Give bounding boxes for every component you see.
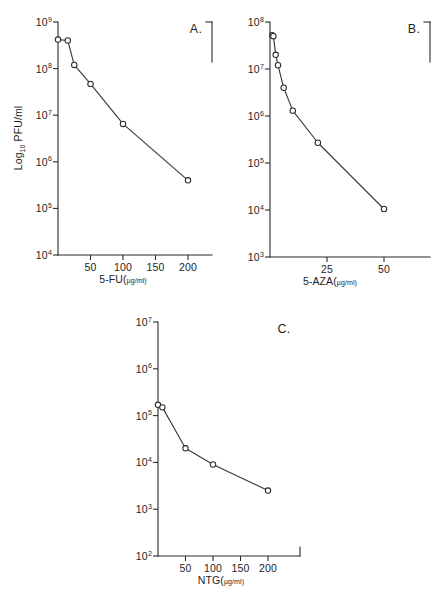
x-tick-label: 50 bbox=[179, 562, 191, 574]
y-tick-label: 104 bbox=[36, 249, 52, 262]
data-series-line bbox=[158, 405, 268, 491]
y-tick-label: 103 bbox=[136, 503, 152, 516]
y-tick-label: 105 bbox=[136, 409, 152, 422]
y-tick-label: 108 bbox=[36, 62, 52, 75]
data-point-marker bbox=[210, 462, 215, 467]
data-point-marker bbox=[55, 37, 60, 42]
data-point-marker bbox=[88, 81, 93, 86]
y-tick-label: 106 bbox=[36, 155, 52, 168]
y-tick-label: 106 bbox=[248, 110, 264, 123]
data-series-line bbox=[272, 35, 384, 209]
x-tick-label: 200 bbox=[179, 261, 197, 273]
x-tick-label: 25 bbox=[321, 263, 333, 275]
x-tick-label: 50 bbox=[378, 263, 390, 275]
panel-letter: B. bbox=[408, 22, 420, 36]
data-point-marker bbox=[120, 121, 125, 126]
data-point-marker bbox=[160, 405, 165, 410]
data-point-marker bbox=[290, 108, 295, 113]
data-series-line bbox=[58, 40, 188, 181]
y-tick-label: 107 bbox=[248, 63, 264, 76]
y-tick-label: 109 bbox=[36, 16, 52, 29]
figure-root: 104105106107108109501001502005-FU(µg/ml)… bbox=[0, 0, 448, 593]
panel-a: 104105106107108109501001502005-FU(µg/ml)… bbox=[12, 16, 212, 286]
data-point-marker bbox=[72, 62, 77, 67]
panel-letter: C. bbox=[277, 322, 290, 336]
data-point-marker bbox=[183, 446, 188, 451]
y-axis-title: Log10 PFU/ml bbox=[12, 106, 26, 170]
data-point-marker bbox=[273, 52, 278, 57]
data-point-marker bbox=[65, 38, 70, 43]
y-tick-label: 102 bbox=[136, 550, 152, 563]
x-axis-title: 5-FU(µg/ml) bbox=[99, 273, 147, 285]
y-tick-label: 108 bbox=[248, 16, 264, 29]
y-tick-label: 107 bbox=[136, 316, 152, 329]
data-point-marker bbox=[265, 488, 270, 493]
x-axis-title: 5-AZA(µg/ml) bbox=[303, 275, 357, 287]
y-tick-label: 103 bbox=[248, 251, 264, 264]
y-tick-label: 106 bbox=[136, 362, 152, 375]
x-tick-label: 200 bbox=[259, 562, 277, 574]
panel-letter: A. bbox=[190, 22, 202, 36]
y-tick-label: 107 bbox=[36, 109, 52, 122]
data-point-marker bbox=[281, 85, 286, 90]
y-tick-label: 104 bbox=[136, 456, 152, 469]
data-point-marker bbox=[315, 140, 320, 145]
x-tick-label: 100 bbox=[204, 562, 222, 574]
y-tick-label: 105 bbox=[36, 202, 52, 215]
x-tick-label: 100 bbox=[114, 261, 132, 273]
data-point-marker bbox=[271, 33, 276, 38]
x-axis-title: NTG(µg/ml) bbox=[198, 574, 244, 586]
panel-b: 10310410510610710825505-AZA(µg/ml)B. bbox=[248, 16, 430, 288]
data-point-marker bbox=[185, 178, 190, 183]
data-point-marker bbox=[381, 206, 386, 211]
x-tick-label: 150 bbox=[231, 562, 249, 574]
data-point-marker bbox=[275, 63, 280, 68]
three-panel-dose-response-figure: 104105106107108109501001502005-FU(µg/ml)… bbox=[0, 0, 448, 593]
x-tick-label: 50 bbox=[84, 261, 96, 273]
y-tick-label: 104 bbox=[248, 204, 264, 217]
panel-c: 10210310410510610750100150200NTG(µg/ml)C… bbox=[136, 316, 300, 587]
x-tick-label: 150 bbox=[146, 261, 164, 273]
y-tick-label: 105 bbox=[248, 157, 264, 170]
